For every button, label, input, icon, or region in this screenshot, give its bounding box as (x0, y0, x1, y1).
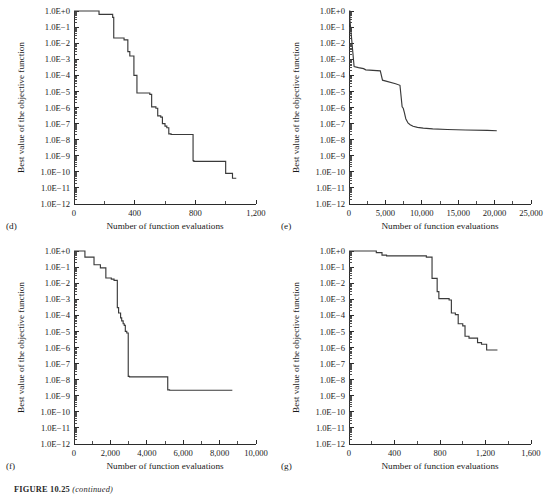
axes (349, 251, 531, 444)
y-tick-label: 1.0E−10 (41, 167, 70, 177)
y-tick-label: 1.0E−12 (316, 439, 345, 449)
y-tick-label: 1.0E−6 (45, 343, 71, 353)
panel-letter: (f) (6, 461, 15, 471)
x-tick-label: 800 (434, 448, 447, 458)
y-tick-label: 1.0E+0 (320, 6, 345, 16)
y-tick-label: 1.0E−2 (320, 38, 345, 48)
y-tick-label: 1.0E−5 (45, 87, 70, 97)
y-tick-label: 1.0E−6 (320, 103, 346, 113)
y-axis-title: Best value of the objective function (16, 42, 26, 173)
y-tick-label: 1.0E−5 (320, 327, 345, 337)
x-tick-label: 8,000 (210, 448, 229, 458)
y-tick-label: 1.0E−12 (316, 199, 345, 209)
y-tick-label: 1.0E−2 (45, 278, 70, 288)
x-axis-title: Number of function evaluations (106, 461, 224, 471)
y-tick-label: 1.0E−4 (320, 310, 346, 320)
x-axis-ticks: 05,00010,00015,00020,00025,000 (347, 200, 543, 219)
figure-sheet: 1.0E+01.0E−11.0E−21.0E−31.0E−41.0E−51.0E… (0, 0, 549, 495)
axes (349, 11, 531, 204)
y-tick-label: 1.0E−1 (45, 22, 70, 32)
y-tick-label: 1.0E−4 (45, 310, 71, 320)
x-tick-label: 15,000 (446, 208, 470, 218)
y-tick-label: 1.0E−5 (320, 87, 345, 97)
y-tick-label: 1.0E−4 (45, 70, 71, 80)
x-axis-title: Number of function evaluations (106, 221, 224, 231)
x-tick-label: 1,200 (246, 208, 265, 218)
y-tick-label: 1.0E−8 (45, 375, 70, 385)
y-tick-label: 1.0E−7 (45, 119, 71, 129)
y-axis-title: Best value of the objective function (291, 42, 301, 173)
y-tick-label: 1.0E−10 (316, 167, 345, 177)
y-tick-label: 1.0E+0 (45, 6, 70, 16)
y-tick-label: 1.0E−8 (45, 135, 70, 145)
chart-svg-e: 1.0E+01.0E−11.0E−21.0E−31.0E−41.0E−51.0E… (275, 0, 549, 248)
chart-svg-f: 1.0E+01.0E−11.0E−21.0E−31.0E−41.0E−51.0E… (0, 240, 274, 488)
x-tick-label: 400 (388, 448, 401, 458)
y-tick-label: 1.0E+0 (45, 246, 70, 256)
y-tick-label: 1.0E−9 (45, 391, 70, 401)
y-tick-label: 1.0E−8 (320, 375, 345, 385)
y-axis-ticks: 1.0E+01.0E−11.0E−21.0E−31.0E−41.0E−51.0E… (41, 246, 79, 449)
figure-caption: FIGURE 10.25 (continued) (14, 485, 113, 495)
y-tick-label: 1.0E−11 (316, 183, 345, 193)
figure-caption-note: (continued) (72, 485, 113, 494)
x-tick-label: 6,000 (174, 448, 193, 458)
series-line (349, 11, 497, 131)
y-tick-label: 1.0E+0 (320, 246, 345, 256)
y-tick-label: 1.0E−11 (41, 183, 70, 193)
y-tick-label: 1.0E−10 (316, 407, 345, 417)
y-tick-label: 1.0E−3 (45, 294, 70, 304)
y-tick-label: 1.0E−3 (320, 54, 345, 64)
x-tick-label: 20,000 (483, 208, 507, 218)
y-tick-label: 1.0E−7 (45, 359, 71, 369)
chart-svg-d: 1.0E+01.0E−11.0E−21.0E−31.0E−41.0E−51.0E… (0, 0, 274, 248)
x-tick-label: 0 (347, 208, 351, 218)
figure-caption-label: FIGURE 10.25 (14, 485, 70, 494)
y-tick-label: 1.0E−5 (45, 327, 70, 337)
x-axis-ticks: 04008001,2001,600 (347, 440, 541, 459)
chart-panel-g: 1.0E+01.0E−11.0E−21.0E−31.0E−41.0E−51.0E… (275, 240, 549, 488)
x-tick-label: 10,000 (410, 208, 434, 218)
y-tick-label: 1.0E−1 (320, 262, 345, 272)
x-tick-label: 1,600 (521, 448, 540, 458)
y-tick-label: 1.0E−12 (41, 199, 70, 209)
y-tick-label: 1.0E−6 (45, 103, 71, 113)
series-line (74, 251, 232, 390)
panel-letter: (d) (6, 221, 17, 231)
x-axis-title: Number of function evaluations (381, 461, 499, 471)
x-tick-label: 800 (189, 208, 202, 218)
x-tick-label: 5,000 (376, 208, 395, 218)
axes (74, 11, 256, 204)
y-tick-label: 1.0E−2 (45, 38, 70, 48)
y-tick-label: 1.0E−11 (316, 423, 345, 433)
y-axis-ticks: 1.0E+01.0E−11.0E−21.0E−31.0E−41.0E−51.0E… (41, 6, 79, 209)
x-axis-ticks: 04008001,200 (72, 200, 266, 219)
y-tick-label: 1.0E−7 (320, 359, 346, 369)
y-tick-label: 1.0E−12 (41, 439, 70, 449)
x-tick-label: 0 (72, 448, 76, 458)
chart-panel-e: 1.0E+01.0E−11.0E−21.0E−31.0E−41.0E−51.0E… (275, 0, 549, 248)
y-tick-label: 1.0E−2 (320, 278, 345, 288)
y-tick-label: 1.0E−9 (320, 391, 345, 401)
x-tick-label: 400 (128, 208, 141, 218)
y-axis-title: Best value of the objective function (291, 282, 301, 413)
y-tick-label: 1.0E−10 (41, 407, 70, 417)
panel-letter: (g) (281, 461, 292, 471)
y-tick-label: 1.0E−7 (320, 119, 346, 129)
axes (74, 251, 256, 444)
x-tick-label: 1,200 (476, 448, 495, 458)
y-axis-title: Best value of the objective function (16, 282, 26, 413)
x-tick-label: 4,000 (137, 448, 156, 458)
y-tick-label: 1.0E−11 (41, 423, 70, 433)
panel-letter: (e) (281, 221, 291, 231)
chart-panel-f: 1.0E+01.0E−11.0E−21.0E−31.0E−41.0E−51.0E… (0, 240, 274, 488)
y-axis-ticks: 1.0E+01.0E−11.0E−21.0E−31.0E−41.0E−51.0E… (316, 246, 354, 449)
chart-svg-g: 1.0E+01.0E−11.0E−21.0E−31.0E−41.0E−51.0E… (275, 240, 549, 488)
x-axis-ticks: 02,0004,0006,0008,00010,000 (72, 440, 268, 459)
y-tick-label: 1.0E−3 (320, 294, 345, 304)
chart-panel-d: 1.0E+01.0E−11.0E−21.0E−31.0E−41.0E−51.0E… (0, 0, 274, 248)
y-tick-label: 1.0E−6 (320, 343, 346, 353)
y-tick-label: 1.0E−9 (45, 151, 70, 161)
x-axis-title: Number of function evaluations (381, 221, 499, 231)
y-axis-ticks: 1.0E+01.0E−11.0E−21.0E−31.0E−41.0E−51.0E… (316, 6, 354, 209)
